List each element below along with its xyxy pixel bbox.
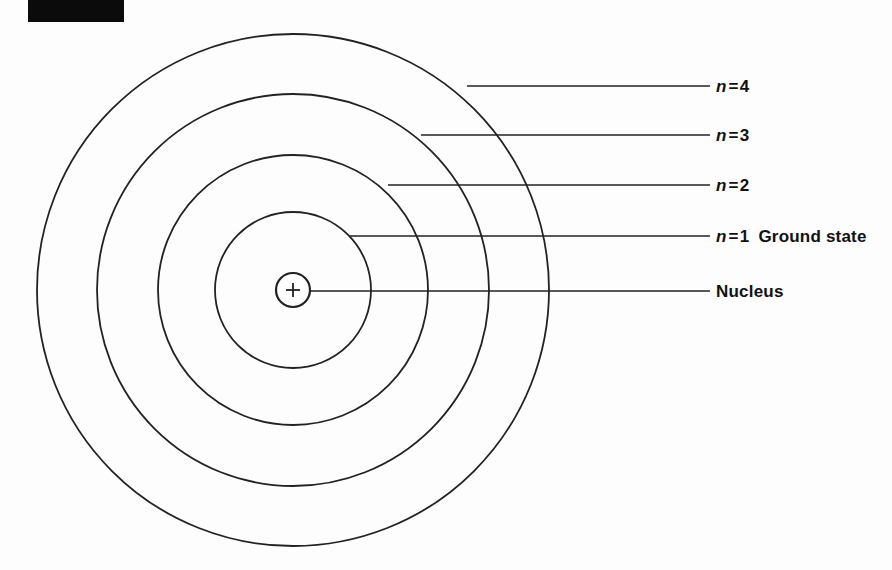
quantum-number-value-n2: 2 bbox=[740, 176, 750, 195]
shell-label-n4: n=4 bbox=[716, 78, 749, 95]
nucleus-group bbox=[276, 273, 310, 307]
quantum-number-value-n3: 3 bbox=[740, 126, 750, 145]
quantum-number-symbol-n3: n bbox=[716, 126, 728, 145]
quantum-number-symbol-n1: n bbox=[716, 227, 728, 246]
shell-label-n1: n=1Ground state bbox=[716, 228, 867, 245]
quantum-number-value-n1: 1 bbox=[740, 227, 750, 246]
leader-lines bbox=[310, 86, 710, 291]
equals-sign-n4: = bbox=[728, 77, 740, 96]
ground-state-label: Ground state bbox=[749, 227, 866, 246]
quantum-number-value-n4: 4 bbox=[740, 77, 750, 96]
equals-sign-n2: = bbox=[728, 176, 740, 195]
quantum-number-symbol-n2: n bbox=[716, 176, 728, 195]
shell-label-n3: n=3 bbox=[716, 127, 749, 144]
nucleus-label: Nucleus bbox=[716, 283, 784, 300]
bohr-model-figure: n=4 n=3 n=2 n=1Ground state Nucleus bbox=[0, 0, 892, 570]
quantum-number-symbol-n4: n bbox=[716, 77, 728, 96]
equals-sign-n3: = bbox=[728, 126, 740, 145]
equals-sign-n1: = bbox=[728, 227, 740, 246]
shell-label-n2: n=2 bbox=[716, 177, 749, 194]
